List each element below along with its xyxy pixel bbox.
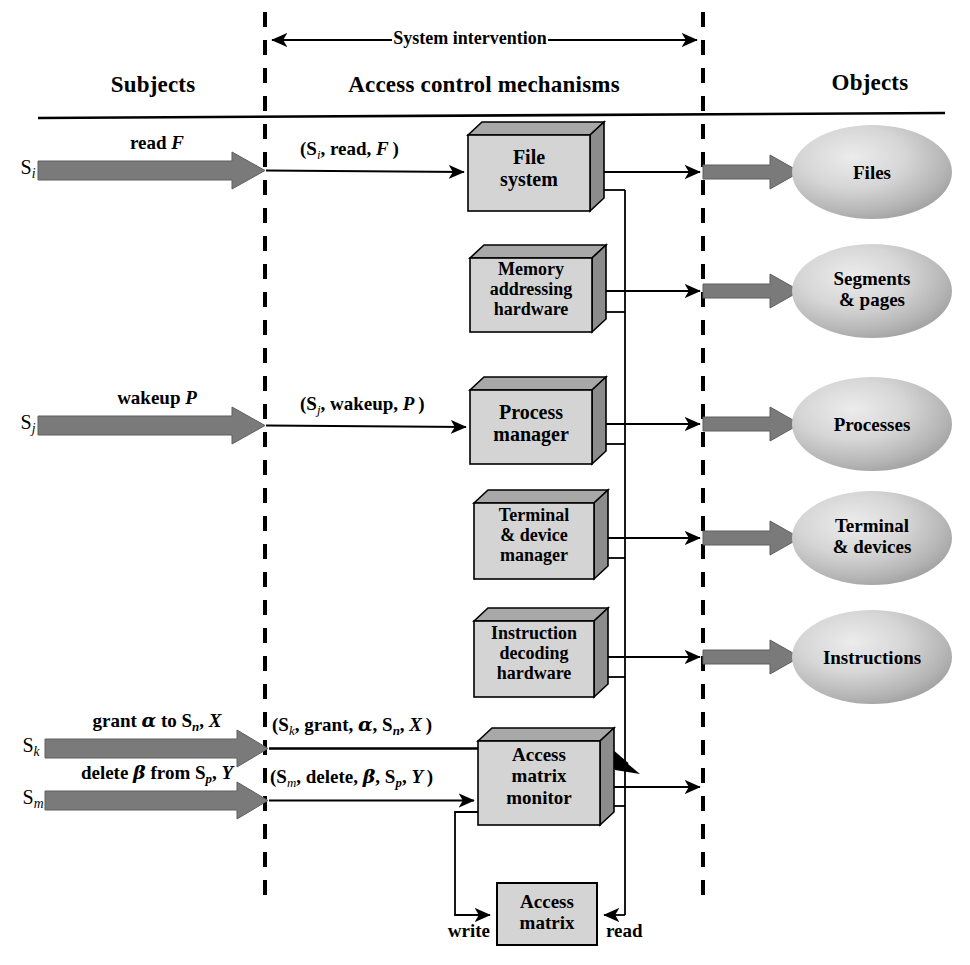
access-control-diagram: Subjects Access control mechanisms Objec… <box>0 0 970 965</box>
object-line: & devices <box>833 536 912 557</box>
mechanism-line: Process <box>499 401 563 423</box>
mechanism-line: decoding <box>499 643 568 663</box>
request-label-s-m: delete β from Sp, Y <box>50 762 264 786</box>
mechanism-line: Terminal <box>499 505 569 525</box>
write-label: write <box>420 920 490 941</box>
mechanism-line: & device <box>500 525 567 545</box>
mechanism-line: Access <box>512 744 566 765</box>
request-line-s-j <box>266 426 466 428</box>
request-label-s-k: grant α to Sn, X <box>52 710 262 734</box>
mechanism-label-process-manager: Process manager <box>470 401 592 446</box>
mechanism-label-file-system: File system <box>468 146 590 191</box>
mechanism-line: monitor <box>506 787 571 808</box>
column-heading-objects: Objects <box>790 70 950 96</box>
object-line: Instructions <box>823 647 921 668</box>
object-line: Files <box>853 162 891 183</box>
store-line: matrix <box>520 912 575 933</box>
mechanism-line: manager <box>500 545 568 565</box>
request-line-s-i <box>266 171 464 173</box>
mechanism-label-instruction-decode: Instruction decoding hardware <box>470 623 598 683</box>
object-arrow-segments-pages <box>703 274 800 308</box>
subject-arrow-s-m <box>45 782 268 819</box>
mechanism-label-access-matrix-monitor: Access matrix monitor <box>478 744 600 808</box>
store-label-access-matrix: Access matrix <box>497 891 597 934</box>
mechanism-line: addressing <box>490 279 573 299</box>
subject-id-s-m: Sm <box>10 786 56 811</box>
object-line: Processes <box>834 414 911 435</box>
object-arrow-instructions <box>703 640 800 674</box>
tuple-label-s-k: (Sk, grant, α, Sn, X ) <box>272 714 502 738</box>
mechanism-line: matrix <box>512 765 567 786</box>
mechanism-line: manager <box>493 423 569 445</box>
column-heading-mechanisms: Access control mechanisms <box>283 72 685 98</box>
read-label: read <box>606 920 668 941</box>
mechanism-line: File <box>513 146 545 168</box>
mechanism-line: Instruction <box>491 623 577 643</box>
column-heading-subjects: Subjects <box>58 72 248 98</box>
mechanism-line: hardware <box>497 663 572 683</box>
request-label-s-j: wakeup P <box>62 387 252 408</box>
object-line: Terminal <box>835 515 909 536</box>
object-line: Segments <box>833 268 910 289</box>
object-label-processes: Processes <box>806 414 938 435</box>
object-label-terminal-devices: Terminal & devices <box>806 515 938 558</box>
object-label-segments-pages: Segments & pages <box>806 268 938 311</box>
subject-id-s-j: Sj <box>8 411 48 436</box>
object-line: & pages <box>839 289 905 310</box>
object-arrow-terminal-devices <box>703 521 800 555</box>
mechanism-line: Memory <box>498 259 564 279</box>
header-rule <box>38 113 945 118</box>
tuple-label-s-i: (Si, read, F ) <box>300 138 460 162</box>
system-intervention-label: System intervention <box>385 28 555 48</box>
object-label-files: Files <box>812 162 932 183</box>
subject-arrow-s-i <box>38 152 265 189</box>
object-arrow-processes <box>703 407 800 441</box>
tuple-label-s-m: (Sm, delete, β, Sp, Y ) <box>270 766 508 790</box>
mechanism-line: hardware <box>494 299 569 319</box>
tuple-label-s-j: (Sj, wakeup, P ) <box>300 393 490 417</box>
object-label-instructions: Instructions <box>800 647 944 668</box>
object-arrow-files <box>703 155 800 189</box>
mechanism-line: system <box>500 168 558 190</box>
subject-id-s-k: Sk <box>10 734 52 759</box>
request-label-s-i: read F <box>62 132 252 153</box>
mechanism-label-memory-addressing: Memory addressing hardware <box>466 259 596 319</box>
mechanism-label-terminal-device: Terminal & device manager <box>472 505 596 565</box>
store-line: Access <box>520 891 574 912</box>
write-path <box>455 812 490 915</box>
subject-id-s-i: Si <box>8 156 48 181</box>
subject-arrow-s-j <box>38 407 265 444</box>
